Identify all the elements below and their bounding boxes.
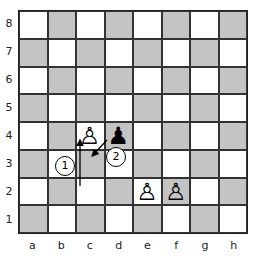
white-pawn-icon: ♙ (133, 180, 161, 204)
white-pawn-icon: ♙ (162, 180, 190, 204)
black-pawn-icon: ♟ (104, 124, 132, 148)
white-pawn-icon: ♙ (76, 124, 104, 148)
arrow-label-1: 1 (55, 156, 75, 176)
arrow-label-2: 2 (106, 147, 126, 167)
